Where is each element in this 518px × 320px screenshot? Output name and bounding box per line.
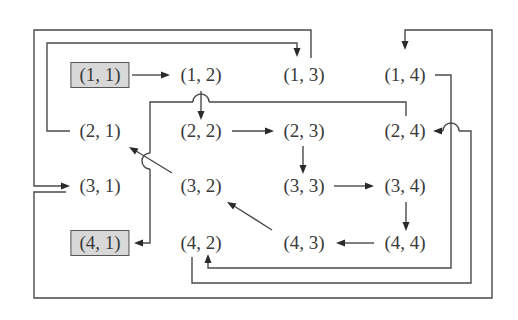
arrowhead-icon xyxy=(129,147,139,155)
node-2-4: (2, 4) xyxy=(384,119,425,143)
edge-13-31 xyxy=(34,30,311,186)
arrowhead-icon xyxy=(433,128,442,135)
arrowhead-icon xyxy=(205,254,212,263)
node-3-2: (3, 2) xyxy=(180,174,221,198)
node-4-3: (4, 3) xyxy=(283,231,324,255)
arrowhead-icon xyxy=(134,240,143,247)
arrowhead-icon xyxy=(227,202,237,210)
arrowhead-icon xyxy=(300,165,307,174)
arrowhead-icon xyxy=(265,128,274,135)
edge-24-41-c xyxy=(142,169,150,243)
arrowhead-icon xyxy=(402,41,409,50)
arrowhead-icon xyxy=(61,183,70,190)
arrowhead-icon xyxy=(161,72,170,79)
node-3-3: (3, 3) xyxy=(283,174,324,198)
node-1-2: (1, 2) xyxy=(180,63,221,87)
node-4-4: (4, 4) xyxy=(384,231,425,255)
arrowhead-icon xyxy=(403,222,410,231)
node-3-1: (3, 1) xyxy=(79,174,120,198)
node-1-3: (1, 3) xyxy=(283,63,324,87)
node-1-4: (1, 4) xyxy=(384,63,425,87)
node-2-3: (2, 3) xyxy=(283,119,324,143)
arrowhead-icon xyxy=(294,48,301,57)
node-4-1: (4, 1) xyxy=(70,230,129,256)
grid-path-diagram: (1, 1) (1, 2) (1, 3) (1, 4) (2, 1) (2, 2… xyxy=(0,0,518,320)
arrowhead-icon xyxy=(336,240,345,247)
arrowhead-icon xyxy=(365,183,374,190)
edge-24-41-a xyxy=(209,102,406,116)
node-4-2: (4, 2) xyxy=(180,231,221,255)
node-2-2: (2, 2) xyxy=(180,119,221,143)
edge-43-32 xyxy=(234,206,272,230)
node-1-1: (1, 1) xyxy=(70,62,129,88)
node-2-1: (2, 1) xyxy=(79,119,120,143)
node-3-4: (3, 4) xyxy=(384,174,425,198)
connector-lines xyxy=(0,0,518,320)
